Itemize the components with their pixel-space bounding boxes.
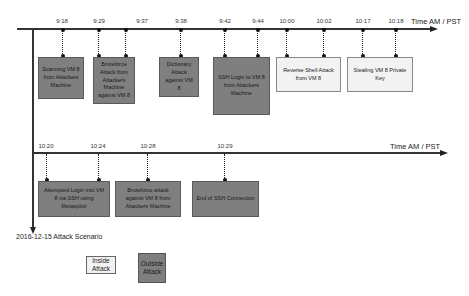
event-box-ssh-login: SSH Login to VM 8 from Attackers Machine <box>213 57 270 115</box>
event-label: Reverse Shell Attack from VM 8 <box>280 67 337 83</box>
tick-label: 9:44 <box>252 18 264 24</box>
tick-label: 10:28 <box>140 143 155 149</box>
event-label: Bruteforce Attack from Attackers Machine… <box>97 61 131 101</box>
event-connector <box>323 30 324 56</box>
event-label: Stealing VM 8 Private Key <box>351 67 409 83</box>
event-box-stealing-key: Stealing VM 8 Private Key <box>347 57 413 92</box>
event-connector <box>257 30 258 56</box>
event-label: End of SSH Connection <box>196 195 254 203</box>
axis-title-row1: Time AM / PST <box>411 17 461 26</box>
tick-label: 10:17 <box>355 18 370 24</box>
event-box-end-ssh: End of SSH Connection <box>192 181 259 217</box>
event-box-bruteforce-2: Bruteforce attack against VM 8 from Atta… <box>115 181 181 217</box>
tick-label: 10:00 <box>279 18 294 24</box>
event-connector <box>98 30 99 56</box>
time-point-marker <box>394 28 398 32</box>
diagram-caption: 2016-12-15 Attack Scenario <box>16 233 102 240</box>
tick-label: 10:24 <box>90 143 105 149</box>
vertical-axis <box>32 29 34 228</box>
time-point-marker <box>256 28 260 32</box>
event-box-dictionary: Dictionary Attack against VM 8 <box>159 57 199 97</box>
event-box-bruteforce: Bruteforce Attack from Attackers Machine… <box>93 57 135 104</box>
timeline-arrow-row1-icon <box>430 26 438 32</box>
event-box-metasploit-login: Attempted Login into VM 8 via SSH using … <box>38 181 110 217</box>
event-connector <box>62 30 63 56</box>
event-label: Bruteforce attack against VM 8 from Atta… <box>119 187 177 211</box>
tick-label: 9:42 <box>219 18 231 24</box>
event-box-reverse-shell: Reverse Shell Attack from VM 8 <box>276 57 341 92</box>
tick-label: 10:29 <box>217 143 232 149</box>
time-point-marker <box>124 28 128 32</box>
tick-label: 10:20 <box>38 143 53 149</box>
time-point-marker <box>322 28 326 32</box>
tick-label: 10:02 <box>316 18 331 24</box>
tick-label: 9:37 <box>136 18 148 24</box>
event-connector <box>180 30 181 56</box>
event-connector <box>224 30 225 56</box>
event-label: Attempted Login into VM 8 via SSH using … <box>42 187 106 211</box>
event-label: SSH Login to VM 8 from Attackers Machine <box>217 74 266 98</box>
timeline-axis-row2 <box>33 152 443 154</box>
event-connector <box>286 30 287 56</box>
event-label: Dictionary Attack against VM 8 <box>163 61 195 93</box>
event-connector <box>46 154 47 180</box>
legend-label: Inside Attack <box>87 257 115 274</box>
legend-label: Outside Attack <box>139 260 165 277</box>
time-point-marker <box>361 28 365 32</box>
time-point-marker <box>179 28 183 32</box>
axis-title-row2: Time AM / PST <box>390 142 440 151</box>
tick-label: 9:38 <box>175 18 187 24</box>
event-connector <box>395 30 396 56</box>
time-point-marker <box>61 28 65 32</box>
event-connector <box>125 30 126 56</box>
time-point-marker <box>97 28 101 32</box>
event-label: Scanning VM 8 from Attackers Machine <box>42 66 80 90</box>
event-connector <box>147 154 148 180</box>
event-box-scanning: Scanning VM 8 from Attackers Machine <box>38 57 84 99</box>
event-connector <box>224 154 225 180</box>
timeline-arrow-row2-icon <box>440 150 448 156</box>
time-point-marker <box>285 28 289 32</box>
tick-label: 9:29 <box>93 18 105 24</box>
tick-label: 10:18 <box>388 18 403 24</box>
legend-inside-attack: Inside Attack <box>86 256 116 274</box>
tick-label: 9:18 <box>56 18 68 24</box>
event-connector <box>98 154 99 180</box>
legend-outside-attack: Outside Attack <box>138 253 166 283</box>
time-point-marker <box>223 28 227 32</box>
event-connector <box>362 30 363 56</box>
